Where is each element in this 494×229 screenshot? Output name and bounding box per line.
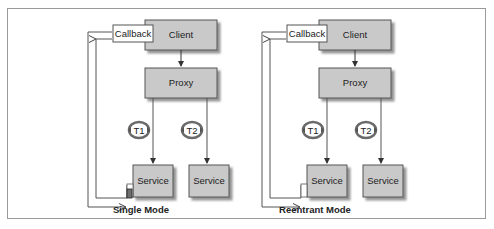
client-label: Client (169, 29, 194, 40)
thread-t1-icon: T1 (128, 122, 150, 138)
service-label-1: Service (137, 175, 169, 186)
thread-t1-icon: T1 (302, 122, 324, 138)
caption-single-mode: Single Mode (113, 204, 169, 215)
lock-icon (127, 189, 132, 198)
thread-t2-icon: T2 (355, 122, 377, 138)
proxy-label: Proxy (343, 77, 368, 88)
client-label: Client (343, 29, 368, 40)
callback-return-line (262, 32, 300, 207)
service-callback-line (270, 39, 301, 198)
proxy-label: Proxy (169, 77, 194, 88)
callback-label: Callback (289, 28, 326, 39)
callback-return-line (88, 32, 126, 207)
single-mode-diagram: Client Callback Proxy T1 T2 Service (88, 20, 229, 215)
svg-text:T1: T1 (133, 125, 144, 136)
thread-t2-icon: T2 (181, 122, 203, 138)
svg-text:T2: T2 (186, 125, 197, 136)
service-callback-line (96, 39, 127, 198)
svg-text:T2: T2 (360, 125, 371, 136)
service-label-2: Service (367, 175, 399, 186)
callback-label: Callback (115, 28, 152, 39)
reentrant-mode-diagram: Client Callback Proxy T1 T2 Service Serv… (262, 20, 403, 215)
caption-reentrant-mode: Reentrant Mode (279, 204, 351, 215)
service-label-2: Service (193, 175, 225, 186)
svg-text:T1: T1 (307, 125, 318, 136)
service-label-1: Service (311, 175, 343, 186)
concurrency-diagram: Client Callback Proxy T1 T2 Service (0, 0, 494, 229)
lock-slot-open (301, 184, 307, 197)
